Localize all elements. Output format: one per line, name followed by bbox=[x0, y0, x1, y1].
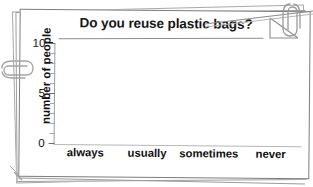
plot-area: 0 5 10 bbox=[54, 44, 303, 146]
x-tick-label-always: always bbox=[54, 146, 116, 159]
bar-chart: Do you reuse plastic bags? number of peo… bbox=[19, 10, 311, 181]
y-tick-label: 5 bbox=[39, 87, 46, 99]
bar-series bbox=[55, 44, 303, 146]
y-tick-label: 0 bbox=[38, 137, 45, 149]
title-underline bbox=[58, 38, 263, 39]
worksheet-scene: Do you reuse plastic bags? number of peo… bbox=[0, 0, 313, 187]
x-tick-label-never: never bbox=[240, 148, 302, 161]
y-tick-label: 10 bbox=[33, 36, 46, 48]
chart-title: Do you reuse plastic bags? bbox=[21, 15, 312, 33]
x-axis-labels: always usually sometimes never bbox=[54, 146, 301, 160]
worksheet-page: Do you reuse plastic bags? number of peo… bbox=[18, 9, 310, 180]
x-tick-label-sometimes: sometimes bbox=[178, 147, 240, 160]
x-tick-label-usually: usually bbox=[116, 147, 178, 160]
